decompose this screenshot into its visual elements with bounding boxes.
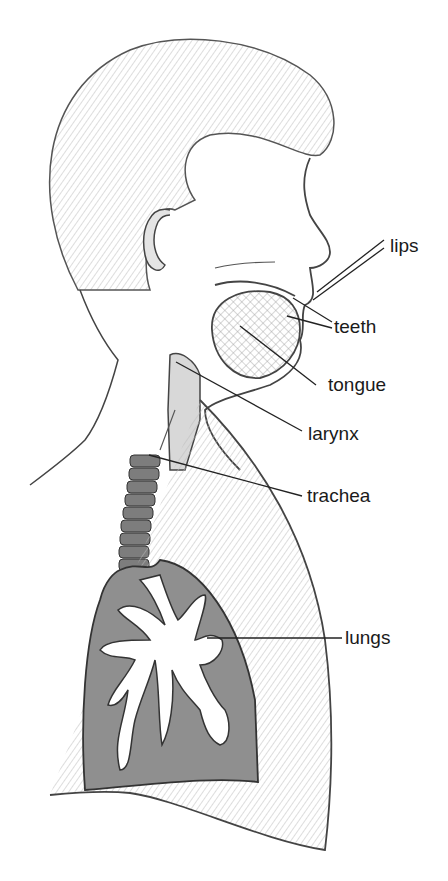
neck-back [30, 290, 118, 485]
tongue [212, 291, 300, 378]
label-larynx: larynx [308, 424, 359, 443]
label-lungs: lungs [345, 628, 390, 647]
anatomy-illustration [0, 0, 448, 881]
hair [50, 39, 334, 290]
label-trachea: trachea [307, 486, 370, 505]
label-lips: lips [390, 236, 419, 255]
label-tongue: tongue [328, 375, 386, 394]
label-teeth: teeth [334, 317, 376, 336]
